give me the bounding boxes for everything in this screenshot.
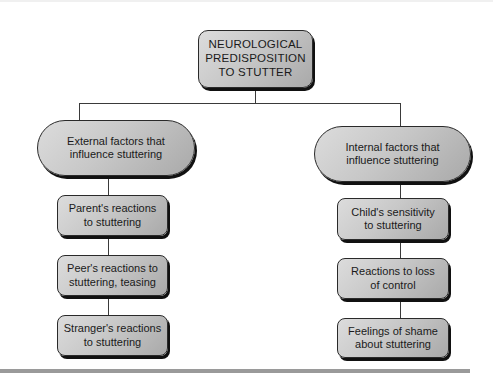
child-label: Feelings of shame about stuttering bbox=[348, 325, 438, 351]
child-label: Parent's reactions to stuttering bbox=[69, 202, 157, 228]
root-label: NEUROLOGICAL PREDISPOSITION TO STUTTER bbox=[205, 38, 306, 79]
child-label: Reactions to loss of control bbox=[351, 265, 435, 291]
root-stem bbox=[255, 88, 256, 103]
branch-bar bbox=[79, 103, 401, 104]
child-label: Peer's reactions to stuttering, teasing bbox=[67, 262, 158, 288]
branch-external-label: External factors that influence stutteri… bbox=[67, 135, 165, 161]
internal-child-shame: Feelings of shame about stuttering bbox=[337, 318, 449, 358]
internal-child-sensitivity: Child's sensitivity to stuttering bbox=[337, 198, 449, 240]
external-child-peers: Peer's reactions to stuttering, teasing bbox=[57, 255, 168, 296]
child-label: Stranger's reactions to stuttering bbox=[64, 322, 161, 348]
child-label: Child's sensitivity to stuttering bbox=[351, 206, 434, 232]
right-drop bbox=[400, 103, 401, 126]
bottom-rule bbox=[0, 369, 470, 373]
external-child-parents: Parent's reactions to stuttering bbox=[57, 195, 168, 236]
branch-internal-label: Internal factors that influence stutteri… bbox=[345, 141, 439, 167]
external-child-strangers: Stranger's reactions to stuttering bbox=[57, 315, 168, 356]
branch-internal: Internal factors that influence stutteri… bbox=[314, 126, 471, 182]
root-node: NEUROLOGICAL PREDISPOSITION TO STUTTER bbox=[198, 30, 313, 88]
left-drop bbox=[79, 103, 80, 121]
top-edge bbox=[0, 0, 493, 2]
branch-external: External factors that influence stutteri… bbox=[37, 120, 195, 176]
internal-child-loss-of-control: Reactions to loss of control bbox=[337, 258, 449, 299]
